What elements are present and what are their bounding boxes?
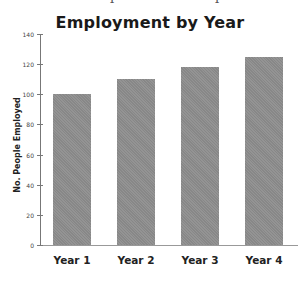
- y-tick-label: 140: [10, 31, 34, 38]
- y-tick: [37, 64, 43, 65]
- y-axis: [40, 34, 41, 245]
- x-tick-label: Year 2: [106, 254, 166, 266]
- y-tick-label: 40: [10, 181, 34, 188]
- bar: [117, 79, 155, 245]
- y-tick: [37, 34, 43, 35]
- y-tick-label: 120: [10, 61, 34, 68]
- y-axis-label: No. People Employed: [13, 97, 22, 193]
- y-tick: [37, 155, 43, 156]
- plot-area: No. People Employed 020406080100120140 Y…: [0, 0, 305, 281]
- y-tick: [37, 245, 43, 246]
- y-tick: [37, 215, 43, 216]
- y-tick-label: 20: [10, 211, 34, 218]
- x-tick-label: Year 1: [42, 254, 102, 266]
- bar: [245, 57, 283, 245]
- y-tick-label: 0: [10, 242, 34, 249]
- x-tick-label: Year 3: [170, 254, 230, 266]
- y-tick-label: 60: [10, 151, 34, 158]
- y-tick: [37, 124, 43, 125]
- y-tick-label: 80: [10, 121, 34, 128]
- bar: [181, 67, 219, 245]
- x-axis: [40, 245, 298, 246]
- y-tick: [37, 185, 43, 186]
- y-tick-label: 100: [10, 91, 34, 98]
- y-tick: [37, 94, 43, 95]
- bar: [53, 94, 91, 245]
- x-tick-label: Year 4: [234, 254, 294, 266]
